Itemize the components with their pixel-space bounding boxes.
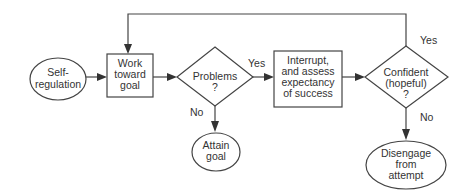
node-label: goal bbox=[120, 79, 140, 91]
edge-label-no: No bbox=[420, 111, 434, 123]
arrowhead-icon bbox=[124, 44, 132, 54]
node-label: goal bbox=[206, 150, 226, 162]
flowchart: Self- regulation Work toward goal Proble… bbox=[0, 0, 469, 192]
node-label: Self- bbox=[47, 66, 69, 78]
node-confident: Confident (hopeful) ? bbox=[365, 46, 448, 108]
node-disengage: Disengage from attempt bbox=[366, 141, 446, 189]
edge-label-yes: Yes bbox=[420, 34, 437, 46]
arrowhead-icon bbox=[355, 73, 365, 81]
node-self-regulation: Self- regulation bbox=[30, 58, 86, 100]
edge-label-yes: Yes bbox=[248, 57, 265, 69]
node-label: of success bbox=[283, 87, 333, 99]
node-label: ? bbox=[212, 81, 218, 93]
arrowhead-icon bbox=[211, 121, 219, 132]
arrowhead-icon bbox=[97, 73, 107, 81]
node-work-toward-goal: Work toward goal bbox=[107, 54, 153, 97]
feedback-loop-connector bbox=[128, 14, 406, 48]
arrowhead-icon bbox=[402, 129, 410, 140]
node-attain-goal: Attain goal bbox=[192, 133, 240, 171]
node-label: attempt bbox=[388, 169, 423, 181]
node-problems: Problems ? bbox=[177, 47, 253, 106]
node-label: ? bbox=[403, 88, 409, 100]
arrowhead-icon bbox=[167, 73, 177, 81]
node-label: regulation bbox=[35, 78, 81, 90]
node-interrupt: Interrupt, and assess expectancy of succ… bbox=[274, 51, 342, 107]
arrowhead-icon bbox=[264, 73, 274, 81]
edge-label-no: No bbox=[190, 106, 204, 118]
